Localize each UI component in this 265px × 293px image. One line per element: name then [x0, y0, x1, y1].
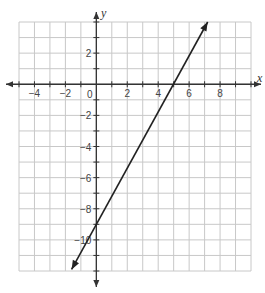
- svg-text:2: 2: [124, 88, 130, 99]
- svg-text:−4: −4: [29, 88, 41, 99]
- svg-text:8: 8: [217, 88, 223, 99]
- svg-text:−2: −2: [60, 88, 72, 99]
- svg-text:−8: −8: [80, 204, 92, 215]
- svg-text:6: 6: [186, 88, 192, 99]
- svg-text:−6: −6: [80, 173, 92, 184]
- x-axis-label: x: [256, 71, 263, 85]
- svg-text:4: 4: [155, 88, 161, 99]
- coordinate-plane: −4−224682−2−4−6−8−10 x y 0: [0, 0, 265, 293]
- svg-text:2: 2: [86, 48, 92, 59]
- plotted-line: [72, 22, 208, 269]
- svg-text:−2: −2: [80, 110, 92, 121]
- origin-label: 0: [87, 89, 93, 100]
- grid: [19, 22, 251, 271]
- y-axis-label: y: [100, 6, 107, 20]
- svg-text:−4: −4: [80, 142, 92, 153]
